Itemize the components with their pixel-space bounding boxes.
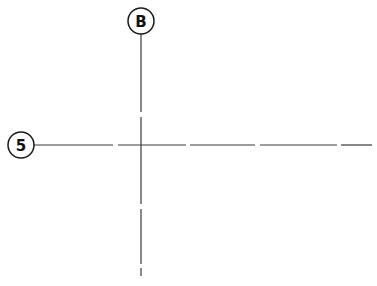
grid-diagram: B 5 bbox=[0, 0, 377, 286]
grid-bubble-b: B bbox=[128, 8, 154, 34]
grid-bubble-5-label: 5 bbox=[16, 137, 26, 155]
grid-bubble-b-label: B bbox=[135, 13, 146, 31]
grid-bubble-5: 5 bbox=[8, 132, 34, 158]
